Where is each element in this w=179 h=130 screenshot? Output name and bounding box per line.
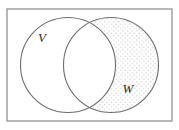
set-label-w: W — [123, 81, 135, 96]
venn-diagram-canvas: V W — [0, 0, 179, 130]
shaded-region-w-minus-v — [0, 0, 179, 130]
venn-diagram-figure: V W — [0, 0, 179, 130]
